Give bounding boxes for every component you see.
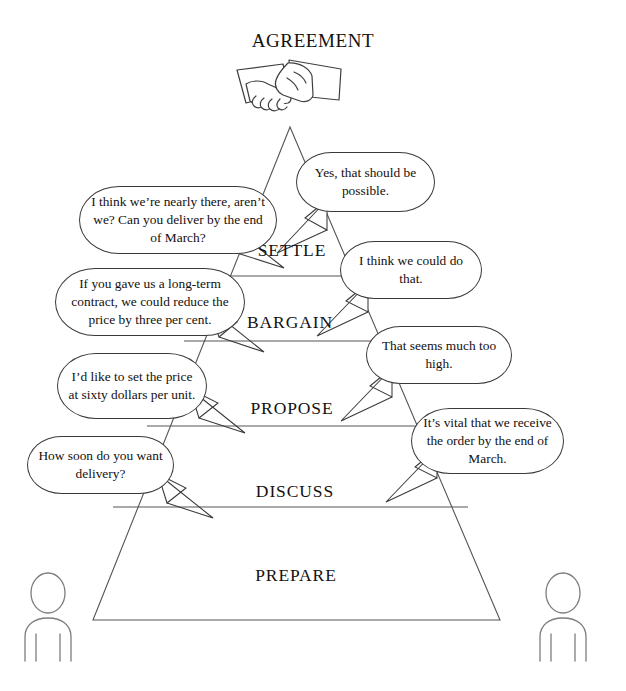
stage-label-propose: PROPOSE bbox=[192, 398, 392, 419]
speech-bubble-text: Yes, that should be possible. bbox=[307, 164, 424, 200]
stage-label-prepare: PREPARE bbox=[196, 565, 396, 586]
negotiation-pyramid-diagram: AGREEMENT SETTLE BARGAIN PROPOSE DISCUSS… bbox=[0, 0, 626, 691]
speech-bubble-text: How soon do you want delivery? bbox=[38, 447, 163, 483]
speech-bubble-propose-left: I’d like to set the price at sixty dolla… bbox=[57, 353, 207, 419]
speech-bubble-discuss-right: It’s vital that we receive the order by … bbox=[411, 408, 564, 474]
person-figure-left bbox=[25, 573, 71, 661]
person-figures bbox=[0, 0, 626, 691]
person-figure-right bbox=[540, 573, 586, 661]
speech-bubble-bargain-right: I think we could do that. bbox=[340, 241, 482, 299]
speech-bubble-text: I’d like to set the price at sixty dolla… bbox=[68, 368, 196, 404]
speech-bubble-text: It’s vital that we receive the order by … bbox=[422, 414, 553, 467]
stage-label-discuss: DISCUSS bbox=[195, 481, 395, 502]
speech-bubble-text: I think we could do that. bbox=[351, 252, 471, 288]
speech-bubble-text: If you gave us a long-term contract, we … bbox=[66, 275, 234, 328]
speech-bubble-settle-left: I think we’re nearly there, aren’t we? C… bbox=[79, 186, 277, 254]
speech-bubble-settle-right: Yes, that should be possible. bbox=[296, 152, 435, 212]
diagram-title: AGREEMENT bbox=[0, 30, 626, 52]
speech-bubble-text: That seems much too high. bbox=[377, 337, 501, 373]
speech-bubble-propose-right: That seems much too high. bbox=[366, 326, 512, 384]
speech-bubble-text: I think we’re nearly there, aren’t we? C… bbox=[90, 193, 266, 246]
speech-bubble-bargain-left: If you gave us a long-term contract, we … bbox=[55, 268, 245, 336]
speech-bubble-discuss-left: How soon do you want delivery? bbox=[27, 436, 174, 494]
